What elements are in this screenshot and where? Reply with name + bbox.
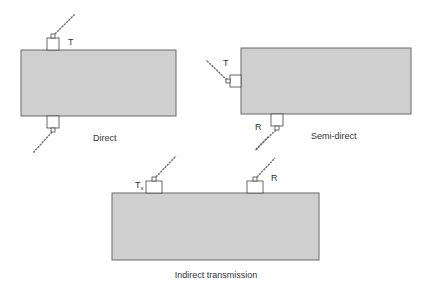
panel-caption: Indirect transmission [175, 270, 258, 280]
panel-caption: Direct [93, 133, 117, 143]
transducer-bottom [33, 116, 59, 153]
transducer-label: R [255, 122, 262, 132]
panel-caption: Semi-direct [311, 131, 357, 141]
transducer-label: T [223, 58, 229, 68]
transmission-diagram: T Direct T R Semi-direct [0, 0, 432, 283]
panel-direct: T Direct [21, 14, 176, 153]
transducer-label: R [271, 173, 278, 183]
concrete-block [21, 50, 176, 116]
concrete-block [112, 193, 319, 260]
panel-indirect: Tx R Indirect transmission [112, 137, 319, 280]
panel-semi-direct: T R Semi-direct [206, 48, 411, 150]
transducer-label: Tx [135, 180, 144, 191]
transducer-bottom [255, 114, 283, 150]
transducer-label: T [68, 37, 74, 47]
transducer-tx [146, 156, 176, 193]
concrete-block [241, 48, 411, 114]
